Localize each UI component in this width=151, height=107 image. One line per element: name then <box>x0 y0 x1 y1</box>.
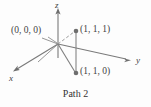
x-axis-label: x <box>9 74 13 83</box>
y-axis-label: y <box>136 56 140 65</box>
z-axis-label: z <box>55 1 59 10</box>
ray-upper-left <box>42 38 58 44</box>
segment-origin-to-111 <box>58 32 74 44</box>
figure-path-2: z y x (0, 0, 0) (1, 1, 1) (1, 1, 0) Path… <box>0 0 151 107</box>
x-axis <box>13 44 58 72</box>
point-marker-110 <box>74 71 79 76</box>
ray-lower-left <box>38 44 58 62</box>
segment-origin-to-110 <box>58 44 75 72</box>
point-label-110: (1, 1, 0) <box>80 67 110 77</box>
point-label-origin: (0, 0, 0) <box>11 26 41 36</box>
point-label-111: (1, 1, 1) <box>80 25 110 35</box>
figure-caption: Path 2 <box>0 89 151 99</box>
z-axis <box>55 8 60 44</box>
y-axis <box>58 44 131 62</box>
point-marker-111 <box>74 29 79 34</box>
